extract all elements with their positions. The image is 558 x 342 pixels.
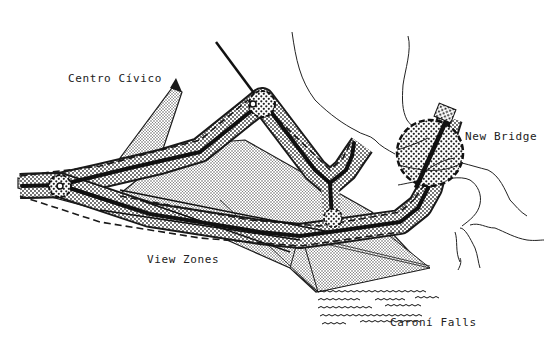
label-new-bridge: New Bridge	[465, 130, 537, 143]
label-caroni-falls: Caroní Falls	[390, 316, 477, 329]
label-centro-civico: Centro Cívico	[68, 72, 162, 85]
label-view-zones: View Zones	[147, 253, 219, 266]
site-plan-map: Centro Cívico New Bridge View Zones Caro…	[0, 0, 558, 342]
map-canvas	[0, 0, 558, 342]
new-bridge-node	[397, 103, 463, 188]
